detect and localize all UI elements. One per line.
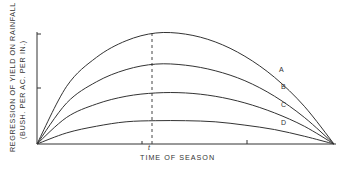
x-axis-label: TIME OF SEASON bbox=[140, 153, 215, 162]
curve-label-d: D bbox=[281, 119, 286, 126]
y-axis-title: REGRESSION OF YIELD ON RAINFALL bbox=[8, 2, 17, 152]
curve-label-a: A bbox=[279, 66, 284, 73]
y-axis-label: REGRESSION OF YIELD ON RAINFALL (BUSH. P… bbox=[6, 2, 36, 162]
time-marker-label: t bbox=[148, 144, 150, 151]
curve-d bbox=[37, 121, 334, 144]
y-axis-units: (BUSH. PER AC. PER IN.) bbox=[18, 40, 27, 139]
curve-b bbox=[37, 64, 334, 144]
chart-canvas bbox=[0, 0, 346, 170]
curve-a bbox=[37, 32, 334, 144]
curve-c bbox=[37, 93, 334, 144]
curve-label-b: B bbox=[281, 83, 286, 90]
curve-label-c: C bbox=[281, 101, 286, 108]
